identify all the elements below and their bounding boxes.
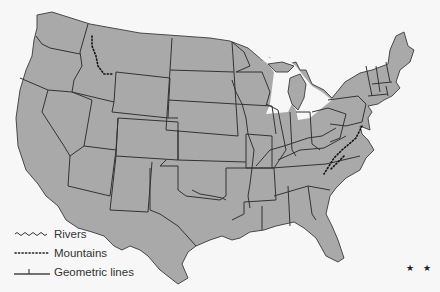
wavy-line-icon — [14, 228, 50, 240]
legend-item-mountains: Mountains — [14, 243, 134, 262]
legend-label: Mountains — [54, 247, 107, 259]
map-figure: Rivers Mountains Geometric lines ★ ★ — [0, 0, 440, 292]
legend-item-geometric-lines: Geometric lines — [14, 262, 134, 281]
legend-label: Rivers — [54, 228, 87, 240]
map-legend: Rivers Mountains Geometric lines — [14, 224, 134, 281]
dotted-line-icon — [14, 247, 50, 259]
star-markers: ★ ★ — [406, 263, 434, 273]
legend-item-rivers: Rivers — [14, 224, 134, 243]
tick-line-icon — [14, 266, 50, 278]
legend-label: Geometric lines — [54, 266, 134, 278]
